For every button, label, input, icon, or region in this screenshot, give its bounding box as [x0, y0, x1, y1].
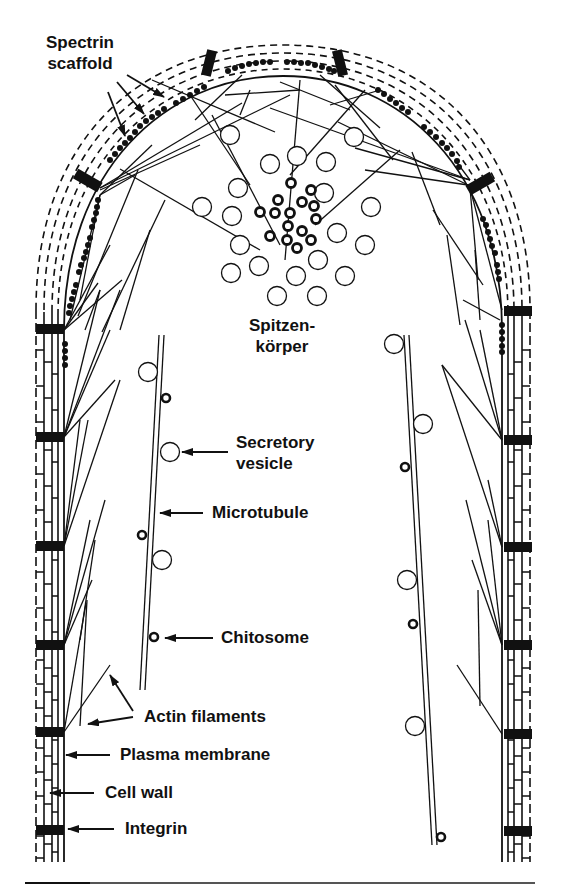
bottom-divider-accent [25, 882, 90, 884]
hyphal-tip-diagram: Spectrin scaffold Spitzen- körper Secret… [0, 0, 563, 885]
secretory-vesicles [139, 335, 433, 736]
label-spectrin-scaffold: Spectrin scaffold [36, 32, 124, 74]
label-spitzenkorper: Spitzen- körper [237, 315, 327, 357]
label-spitzenkorper-line2: körper [237, 336, 327, 357]
label-actin-filaments: Actin filaments [144, 706, 266, 727]
label-spectrin-line2: scaffold [36, 53, 124, 74]
label-spitzenkorper-line1: Spitzen- [237, 315, 327, 336]
label-cell-wall: Cell wall [105, 782, 173, 803]
label-plasma-membrane: Plasma membrane [120, 744, 270, 765]
label-secretory-line2: vesicle [236, 453, 314, 474]
microtubules [140, 335, 437, 845]
label-secretory-vesicle: Secretory vesicle [236, 432, 314, 474]
label-integrin: Integrin [125, 818, 187, 839]
label-secretory-line1: Secretory [236, 432, 314, 453]
label-chitosome: Chitosome [221, 627, 309, 648]
label-spectrin-line1: Spectrin [36, 32, 124, 53]
label-microtubule: Microtubule [212, 502, 308, 523]
